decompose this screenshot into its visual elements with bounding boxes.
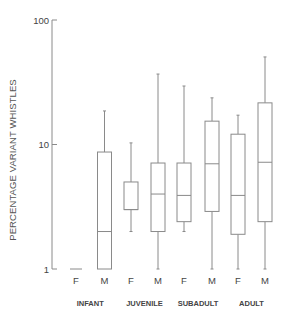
- iqr-box: [151, 163, 165, 232]
- x-tick-label-m: M: [154, 275, 162, 286]
- y-axis: 110100: [33, 15, 57, 275]
- box-adult-m: [258, 57, 272, 269]
- x-tick-label-m: M: [208, 275, 216, 286]
- x-tick-label-f: F: [181, 275, 187, 286]
- group-label-juvenile: JUVENILE: [126, 299, 163, 308]
- group-label-adult: ADULT: [239, 299, 264, 308]
- iqr-box: [177, 163, 191, 222]
- iqr-box: [231, 134, 245, 234]
- x-tick-label-f: F: [235, 275, 241, 286]
- box-infant-m: [98, 111, 112, 269]
- x-axis-labels: FMFMFMFMINFANTJUVENILESUBADULTADULT: [73, 275, 269, 308]
- x-tick-label-m: M: [261, 275, 269, 286]
- iqr-box: [98, 152, 112, 269]
- x-tick-label-m: M: [101, 275, 109, 286]
- box-juvenile-f: [124, 143, 138, 232]
- y-tick-label: 100: [33, 15, 49, 26]
- x-tick-label-f: F: [128, 275, 134, 286]
- iqr-box: [205, 121, 219, 211]
- group-label-subadult: SUBADULT: [178, 299, 219, 308]
- box-subadult-m: [205, 98, 219, 269]
- y-tick-label: 1: [44, 264, 49, 275]
- iqr-box: [124, 182, 138, 210]
- box-plot: 110100 FMFMFMFMINFANTJUVENILESUBADULTADU…: [0, 0, 281, 316]
- box-adult-f: [231, 115, 245, 269]
- boxes: [70, 57, 272, 269]
- group-label-infant: INFANT: [77, 299, 105, 308]
- box-subadult-f: [177, 86, 191, 232]
- box-juvenile-m: [151, 74, 165, 269]
- y-tick-label: 10: [38, 139, 49, 150]
- x-tick-label-f: F: [73, 275, 79, 286]
